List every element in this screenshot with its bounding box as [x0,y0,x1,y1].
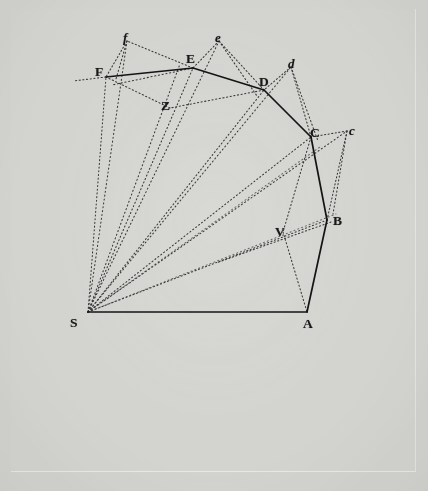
edge-E-F [106,68,193,77]
parallel-c-B [333,131,347,214]
radius-S-D [88,90,264,312]
radius-S-c [88,131,347,312]
ray-S-V [88,214,336,312]
figure-page: S A B C D E F V Z c d e f [0,0,428,491]
parallel-e-D [219,41,257,96]
impulse-f-F [106,41,127,77]
edge-B-C [311,137,327,220]
label-point-E: E [186,52,195,66]
radius-S-B [88,220,327,312]
label-point-A: A [303,317,313,331]
edge-A-B [307,220,327,312]
impulse-e-E [193,41,219,68]
label-point-f: f [123,31,127,44]
tangent-E-f [127,41,193,68]
label-point-B: B [333,214,342,228]
label-point-V: V [275,225,285,239]
chord-E-below-F [112,68,193,85]
label-point-S: S [70,316,78,330]
parallel-f-F [116,41,127,79]
tangent-B-c [327,131,347,220]
chord-B-V-ext [216,222,331,263]
radius-S-f [88,41,127,312]
label-point-D: D [259,75,269,89]
chord-V-A [283,232,307,312]
label-point-Z: Z [161,99,170,113]
solid-polygon-path [88,68,327,312]
label-point-C: C [310,126,320,140]
label-point-F: F [95,65,103,79]
label-point-c: c [349,124,355,137]
label-point-d: d [288,57,295,70]
geometry-figure [0,0,428,491]
label-point-e: e [215,31,221,44]
chord-D-Z [170,90,264,108]
chord-C-V [283,137,311,232]
edge-C-D [264,90,311,137]
dotted-construction-lines [73,41,347,312]
